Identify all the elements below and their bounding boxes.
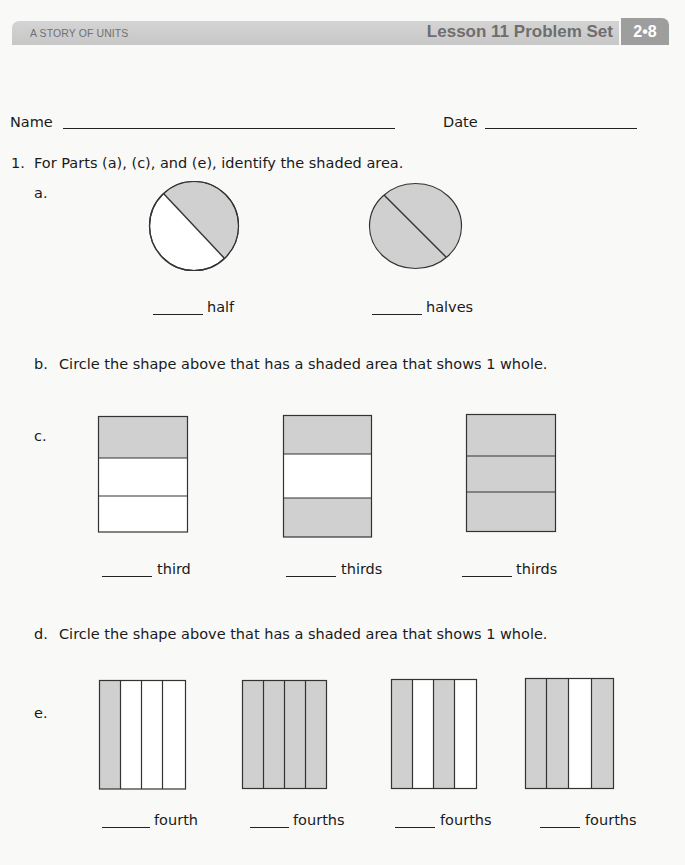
circle-a2[interactable] [370,184,462,269]
answer-blank-c3[interactable] [462,576,512,577]
part-b-instruction: Circle the shape above that has a shaded… [59,356,547,372]
part-c-label: c. [34,428,47,444]
figures-canvas [0,0,685,865]
rect-c2[interactable] [284,416,372,538]
unit-word-a1: half [207,299,234,315]
unit-word-c1: third [157,561,191,577]
rect-e1[interactable] [100,681,186,790]
answer-blank-e2[interactable] [250,827,289,828]
answer-blank-e4[interactable] [540,827,580,828]
rect-e2[interactable] [243,681,327,789]
rect-c3[interactable] [467,415,556,532]
answer-blank-a1[interactable] [153,314,203,315]
circle-a1[interactable] [150,182,239,271]
rect-c1[interactable] [99,417,188,533]
answer-blank-c1[interactable] [102,576,152,577]
answer-blank-e3[interactable] [395,827,435,828]
unit-word-e4: fourths [585,812,637,828]
part-e-label: e. [34,705,48,721]
unit-word-c2: thirds [341,561,382,577]
unit-word-a2: halves [426,299,473,315]
part-d-instruction: Circle the shape above that has a shaded… [59,626,547,642]
answer-blank-a2[interactable] [372,314,422,315]
rect-e3[interactable] [392,680,477,789]
unit-word-e3: fourths [440,812,492,828]
unit-word-c3: thirds [516,561,557,577]
rect-e4[interactable] [526,679,614,789]
unit-word-e1: fourth [154,812,198,828]
unit-word-e2: fourths [293,812,345,828]
answer-blank-c2[interactable] [286,576,336,577]
part-d-label: d. [34,626,48,642]
answer-blank-e1[interactable] [102,827,150,828]
part-b-label: b. [34,356,48,372]
